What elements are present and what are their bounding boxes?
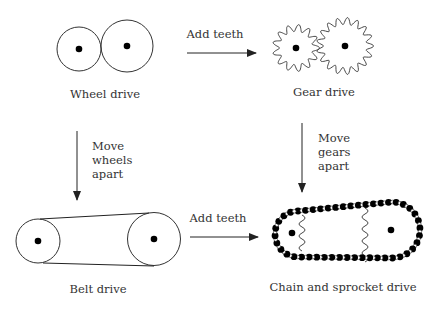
large-pulley-axle (151, 236, 158, 243)
large-gear-axle (342, 43, 349, 50)
right-sprocket-teeth (362, 208, 368, 262)
right-sprocket-axle (388, 227, 395, 234)
small-wheel-axle (76, 46, 83, 53)
wheel-drive-label: Wheel drive (70, 87, 140, 101)
add-teeth-label-top: Add teeth (186, 27, 245, 41)
add-teeth-arrow-top: Add teeth (186, 27, 256, 53)
add-teeth-arrow-bottom: Add teeth (189, 211, 258, 237)
left-sprocket-axle (289, 230, 296, 237)
chain-sprocket-drive: Chain and sprocket drive (269, 199, 423, 294)
move-gears-apart-arrow: Move gears apart (302, 123, 354, 192)
move-wheels-apart-label: Move wheels apart (92, 139, 136, 181)
left-sprocket-teeth (299, 215, 305, 251)
add-teeth-label-bottom: Add teeth (189, 211, 248, 225)
small-gear-axle (293, 45, 300, 52)
drive-evolution-diagram: Wheel drive Add teeth Gear drive Move wh… (0, 0, 435, 309)
chain-sprocket-label: Chain and sprocket drive (269, 280, 416, 294)
gear-drive: Gear drive (273, 18, 373, 99)
belt-drive: Belt drive (16, 213, 181, 297)
belt-top (40, 213, 149, 219)
move-gears-apart-label: Move gears apart (318, 131, 354, 173)
small-pulley-axle (35, 238, 42, 245)
move-wheels-apart-arrow: Move wheels apart (77, 131, 136, 200)
chain-links (272, 199, 424, 261)
belt-bottom (43, 263, 154, 266)
wheel-drive: Wheel drive (57, 20, 153, 101)
large-wheel-axle (124, 43, 131, 50)
gear-drive-label: Gear drive (293, 85, 355, 99)
belt-drive-label: Belt drive (69, 282, 126, 296)
